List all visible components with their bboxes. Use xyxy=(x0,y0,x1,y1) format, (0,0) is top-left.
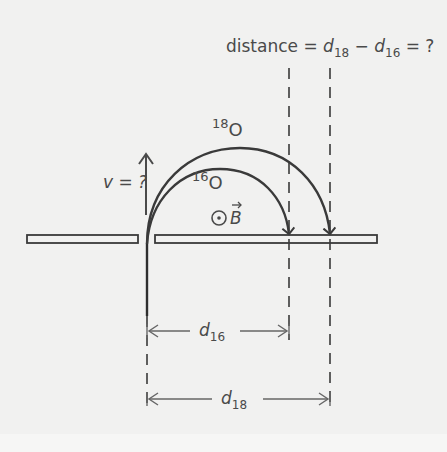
mass-spectrometer-diagram: distance = d18 − d16 = ? v = ? 18O xyxy=(0,0,447,452)
magnetic-field-out-of-page-icon xyxy=(212,211,226,225)
magnetic-field-label: B xyxy=(230,202,242,228)
bottom-band xyxy=(0,434,447,452)
svg-text:distance = d18 − d16 = ?: distance = d18 − d16 = ? xyxy=(226,36,434,60)
detector-plate-left xyxy=(27,235,138,243)
trajectory-o18 xyxy=(147,148,330,244)
svg-text:B: B xyxy=(230,208,242,228)
detector-plate-right xyxy=(155,235,377,243)
dimension-label-d16: d16 xyxy=(199,320,225,344)
dimension-d18: d18 xyxy=(147,388,330,412)
dimension-label-d18: d18 xyxy=(221,388,247,412)
distance-equation: distance = d18 − d16 = ? xyxy=(226,36,434,60)
isotope-label-o16: 16O xyxy=(192,169,223,193)
velocity-label: v = ? xyxy=(103,172,147,192)
dimension-d16: d16 xyxy=(147,320,289,344)
isotope-label-o18: 18O xyxy=(212,116,243,140)
